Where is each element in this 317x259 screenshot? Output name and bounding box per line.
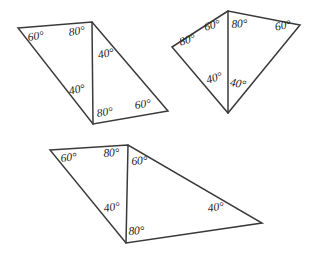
angle-label-tl-f: 60° [134, 98, 152, 112]
angle-label-tl-b: 80° [68, 25, 86, 39]
geometry-canvas [0, 0, 317, 259]
quadrilateral-bottom [50, 145, 262, 243]
quadrilateral-bottom-outline [50, 145, 262, 243]
angle-label-bt-c: 60° [131, 155, 148, 168]
angle-label-bt-f: 40° [207, 201, 225, 215]
angle-label-tl-a: 60° [27, 30, 45, 44]
quadrilateral-top-left-diagonal [92, 22, 93, 124]
angle-label-bt-b: 80° [103, 147, 120, 160]
angle-label-bt-d: 40° [103, 201, 121, 215]
angle-label-bt-a: 60° [60, 151, 77, 164]
angle-label-tl-e: 80° [96, 106, 114, 120]
angle-label-tr-b: 80° [231, 18, 248, 31]
angle-label-bt-e: 80° [128, 225, 145, 238]
